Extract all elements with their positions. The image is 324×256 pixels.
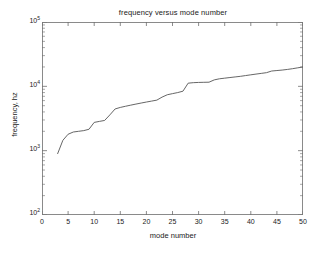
xtick-label-30: 30 [195,218,203,225]
xtick-label-0: 0 [40,218,44,225]
xtick-label-45: 45 [273,218,281,225]
y-axis-tick-labels: 105 104 103 102 [0,0,40,256]
y-axis-minor-ticks [42,25,303,196]
plot-canvas [42,22,303,215]
matlab-figure-window: frequency versus mode number frequency, … [0,0,324,256]
chart-title: frequency versus mode number [42,8,304,17]
ytick-label-1e4: 104 [29,81,40,88]
frequency-data-line [58,67,303,154]
xtick-label-15: 15 [116,218,124,225]
x-axis-label: mode number [42,231,304,240]
xtick-label-40: 40 [247,218,255,225]
xtick-label-50: 50 [299,218,307,225]
xtick-label-10: 10 [90,218,98,225]
xtick-label-20: 20 [142,218,150,225]
y-axis-major-ticks [42,22,303,215]
xtick-label-25: 25 [169,218,177,225]
xtick-label-35: 35 [221,218,229,225]
xtick-label-5: 5 [66,218,70,225]
ytick-label-1e2: 102 [29,209,40,216]
ytick-label-1e3: 103 [29,145,40,152]
x-axis-ticks [42,22,303,215]
plot-area [42,22,303,215]
ytick-label-1e5: 105 [29,17,40,24]
